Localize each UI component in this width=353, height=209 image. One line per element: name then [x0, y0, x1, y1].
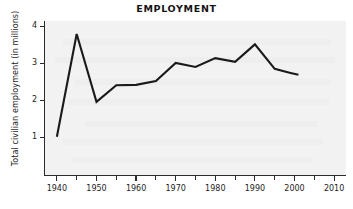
- x-tick-label-1980: 1980: [200, 184, 230, 193]
- x-tick-mark-2000: [294, 176, 295, 181]
- x-tick-mark-1950: [96, 176, 97, 181]
- x-tick-label-2000: 2000: [280, 184, 310, 193]
- x-tick-mark-2010: [334, 176, 335, 181]
- x-tick-label-1940: 1940: [42, 184, 72, 193]
- x-minor-tick-1985: [235, 176, 236, 180]
- y-tick-label-1: 1: [21, 132, 37, 141]
- plot-area: [45, 21, 346, 175]
- x-minor-tick-2005: [314, 176, 315, 180]
- y-tick-mark-4: [40, 26, 44, 27]
- chart-figure: EMPLOYMENT Total civilian employment (in…: [0, 0, 353, 209]
- y-tick-label-2: 2: [21, 95, 37, 104]
- x-minor-tick-1955: [116, 176, 117, 180]
- x-tick-mark-1970: [175, 176, 176, 181]
- x-tick-label-1950: 1950: [81, 184, 111, 193]
- y-tick-mark-3: [40, 63, 44, 64]
- x-tick-label-1960: 1960: [121, 184, 151, 193]
- x-tick-mark-1960: [135, 176, 136, 181]
- y-tick-mark-2: [40, 100, 44, 101]
- x-minor-tick-1975: [195, 176, 196, 180]
- y-axis-title: Total civilian employment (in millions): [11, 4, 20, 174]
- y-tick-label-4: 4: [21, 21, 37, 30]
- y-tick-label-3: 3: [21, 58, 37, 67]
- y-tick-mark-1: [40, 137, 44, 138]
- x-tick-mark-1980: [215, 176, 216, 181]
- y-axis-line: [44, 21, 45, 176]
- data-line-svg: [45, 21, 346, 175]
- chart-title: EMPLOYMENT: [0, 3, 353, 14]
- employment-line-series: [57, 34, 299, 137]
- x-tick-mark-1990: [254, 176, 255, 181]
- x-tick-label-1990: 1990: [240, 184, 270, 193]
- x-minor-tick-1995: [274, 176, 275, 180]
- x-tick-label-2010: 2010: [319, 184, 349, 193]
- x-minor-tick-1945: [76, 176, 77, 180]
- x-minor-tick-1965: [155, 176, 156, 180]
- x-tick-mark-1940: [56, 176, 57, 181]
- x-tick-label-1970: 1970: [161, 184, 191, 193]
